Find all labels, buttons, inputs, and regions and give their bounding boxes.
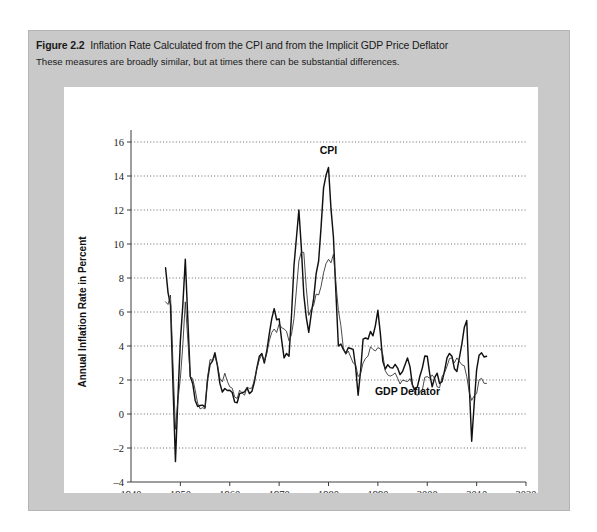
y-tick-label-8: 8 [119, 273, 124, 284]
gridlines [131, 142, 526, 448]
y-tick-label-4: 4 [119, 341, 125, 352]
figure-page: Figure 2.2 Inflation Rate Calculated fro… [0, 0, 597, 532]
y-tick-label-12: 12 [114, 205, 125, 216]
x-tick-label-2020: 2020 [516, 489, 537, 493]
y-tick-label-10: 10 [114, 239, 125, 250]
x-tick-label-1970: 1970 [269, 489, 290, 493]
y-tick-label-16: 16 [114, 137, 125, 148]
annotation-gdp-deflator: GDP Deflator [375, 385, 440, 397]
series-line-gdp-deflator [166, 252, 487, 429]
y-axis-title: Annual Inflation Rate in Percent [77, 236, 88, 388]
annotation-cpi: CPI [320, 144, 338, 156]
x-tick-label-1980: 1980 [318, 489, 339, 493]
figure-title-text: Inflation Rate Calculated from the CPI a… [90, 39, 448, 51]
x-tick-label-1940: 1940 [121, 489, 142, 493]
x-tick-label-1950: 1950 [170, 489, 191, 493]
y-tick-label-2: 2 [119, 375, 124, 386]
x-tick-label-1990: 1990 [367, 489, 388, 493]
series-line-cpi [166, 168, 487, 462]
y-tick-label--2: –2 [113, 443, 125, 454]
x-tick-label-1960: 1960 [219, 489, 240, 493]
y-tick-label-14: 14 [114, 171, 125, 182]
figure-caption: Figure 2.2 Inflation Rate Calculated fro… [36, 38, 562, 69]
figure-subtitle: These measures are broadly similar, but … [36, 55, 562, 69]
y-tick-label-0: 0 [119, 409, 124, 420]
data-series [166, 168, 487, 462]
x-tick-label-2000: 2000 [417, 489, 438, 493]
figure-title: Figure 2.2 Inflation Rate Calculated fro… [36, 38, 562, 52]
x-tick-label-2010: 2010 [466, 489, 487, 493]
y-tick-label-6: 6 [119, 307, 124, 318]
inflation-line-chart: –4–2024681012141619401950196019701980199… [64, 87, 538, 493]
y-tick-label--4: –4 [113, 477, 125, 488]
chart-panel: –4–2024681012141619401950196019701980199… [64, 87, 538, 493]
figure-label: Figure 2.2 [36, 39, 85, 51]
figure-container: Figure 2.2 Inflation Rate Calculated fro… [28, 30, 570, 511]
